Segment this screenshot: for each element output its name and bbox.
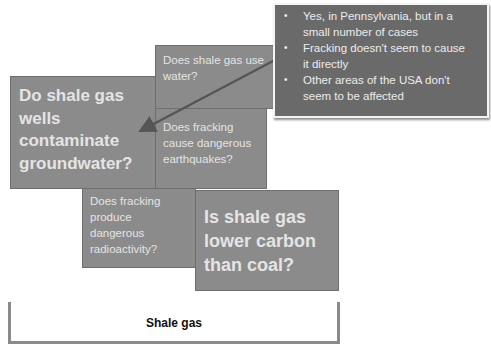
answer-list: • Yes, in Pennsylvania, but in a small n… <box>281 8 481 104</box>
box-text-line: than coal? <box>204 253 334 277</box>
box-text-line: water? <box>163 68 270 84</box>
box-text-line: earthquakes? <box>163 151 262 167</box>
question-box-groundwater: Do shale gas wells contaminate groundwat… <box>10 76 156 189</box>
answer-line: Fracking doesn't seem to cause <box>303 40 481 56</box>
bracket-label: Shale gas <box>11 316 337 330</box>
bullet-icon: • <box>284 40 288 56</box>
question-box-water-use: Does shale gas use water? <box>155 45 275 109</box>
answer-line: it directly <box>303 56 481 72</box>
answer-callout: • Yes, in Pennsylvania, but in a small n… <box>273 3 489 118</box>
question-box-radioactivity: Does fracking produce dangerous radioact… <box>82 188 196 268</box>
box-text-line: cause dangerous <box>163 135 262 151</box>
box-text-line: Is shale gas <box>204 205 334 229</box>
answer-line: small number of cases <box>303 24 481 40</box>
box-text-line: groundwater? <box>19 153 151 176</box>
question-box-carbon: Is shale gas lower carbon than coal? <box>195 190 339 291</box>
question-box-earthquakes: Does fracking cause dangerous earthquake… <box>155 108 267 189</box>
answer-item: • Other areas of the USA don't seem to b… <box>281 72 481 104</box>
bullet-icon: • <box>284 72 288 88</box>
box-text-line: dangerous <box>90 225 191 241</box>
box-text-line: radioactivity? <box>90 241 191 257</box>
shale-gas-bracket: Shale gas <box>8 302 340 344</box>
box-text-line: produce <box>90 209 191 225</box>
box-text-line: Does fracking <box>90 193 191 209</box>
answer-line: Other areas of the USA don't <box>303 72 481 88</box>
box-text-line: contaminate <box>19 130 151 153</box>
box-text-line: wells <box>19 108 151 131</box>
answer-line: seem to be affected <box>303 88 481 104</box>
answer-item: • Yes, in Pennsylvania, but in a small n… <box>281 8 481 40</box>
box-text-line: Do shale gas <box>19 85 151 108</box>
box-text-line: lower carbon <box>204 229 334 253</box>
bullet-icon: • <box>284 8 288 24</box>
answer-line: Yes, in Pennsylvania, but in a <box>303 8 481 24</box>
answer-item: • Fracking doesn't seem to cause it dire… <box>281 40 481 72</box>
box-text-line: Does shale gas use <box>163 52 270 68</box>
box-text-line: Does fracking <box>163 119 262 135</box>
